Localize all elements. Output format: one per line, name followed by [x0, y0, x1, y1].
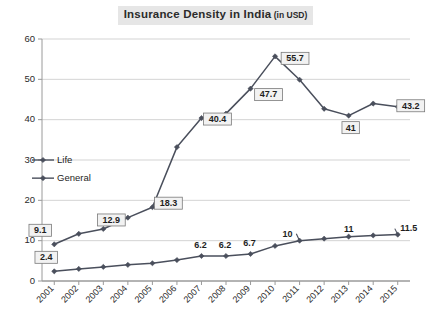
x-axis-tick-label: 2005: [133, 283, 154, 304]
legend-marker-general: [40, 176, 45, 181]
annotation-value-label: 47.7: [260, 89, 278, 99]
y-axis-tick-label: 40: [24, 113, 35, 124]
y-axis-tick-label: 50: [24, 73, 35, 84]
data-point-marker: [223, 253, 228, 258]
annotation-value-label: 11.5: [400, 223, 417, 233]
y-axis-tick-label: 0: [30, 275, 35, 286]
data-point-marker: [199, 253, 204, 258]
y-axis-tick-labels: 0102030405060: [24, 33, 35, 286]
x-axis-tick-label: 2003: [84, 283, 105, 304]
legend-label-life: Life: [57, 154, 72, 165]
y-axis-tick-label: 20: [24, 194, 35, 205]
x-axis-tick-label: 2001: [34, 283, 55, 304]
x-axis-tick-label: 2013: [329, 283, 350, 304]
y-axis-tick-label: 60: [24, 33, 35, 44]
annotation-value-label: 55.7: [286, 53, 304, 63]
data-point-marker: [272, 243, 277, 248]
data-point-marker: [52, 269, 57, 274]
annotation-value-label: 43.2: [402, 101, 420, 111]
annotation-value-label: 2.4: [40, 252, 53, 262]
data-point-marker: [101, 264, 106, 269]
annotation-value-label: 9.1: [34, 225, 47, 235]
line-chart-plot: 0102030405060 20012002200320042005200620…: [0, 0, 431, 319]
x-axis-tick-label: 2002: [59, 283, 80, 304]
y-axis-tick-label: 30: [24, 154, 35, 165]
data-point-marker: [125, 262, 130, 267]
data-point-marker: [248, 251, 253, 256]
legend-label-general: General: [57, 172, 91, 183]
data-point-marker: [101, 226, 106, 231]
annotation-value-label: 12.9: [103, 215, 121, 225]
x-axis-tick-label: 2011: [280, 283, 301, 304]
x-axis-tick-label: 2015: [378, 283, 399, 304]
x-axis-tick-label: 2007: [182, 283, 203, 304]
data-point-marker: [371, 101, 376, 106]
data-point-marker: [371, 233, 376, 238]
data-point-marker: [150, 261, 155, 266]
x-axis-tick-label: 2012: [304, 283, 325, 304]
data-point-marker: [76, 231, 81, 236]
annotation-value-label: 18.3: [160, 198, 178, 208]
x-axis-tick-label: 2006: [157, 283, 178, 304]
annotation-value-label: 10: [283, 229, 293, 239]
chart-legend: LifeGeneral: [32, 154, 91, 183]
x-axis-tick-label: 2010: [255, 283, 276, 304]
annotation-value-label: 6.7: [243, 238, 256, 248]
data-point-marker: [174, 257, 179, 262]
x-axis-tick-label: 2004: [108, 283, 129, 304]
x-axis-tick-label: 2014: [353, 283, 374, 304]
data-point-marker: [125, 215, 130, 220]
x-axis-tick-label: 2008: [206, 283, 227, 304]
annotation-value-label: 40.4: [209, 114, 227, 124]
x-axis-tick-label: 2009: [231, 283, 252, 304]
legend-marker-life: [40, 157, 45, 162]
annotation-value-label: 6.2: [194, 240, 207, 250]
data-point-marker: [346, 113, 351, 118]
x-axis-tick-labels: 2001200220032004200520062007200820092010…: [34, 283, 399, 304]
annotation-value-label: 41: [346, 123, 356, 133]
annotation-value-label: 11: [344, 224, 354, 234]
data-point-marker: [52, 242, 57, 247]
data-point-marker: [76, 266, 81, 271]
data-point-marker: [346, 234, 351, 239]
annotation-value-label: 6.2: [219, 240, 232, 250]
chart-container: Insurance Density in India (in USD) 0102…: [0, 0, 431, 319]
